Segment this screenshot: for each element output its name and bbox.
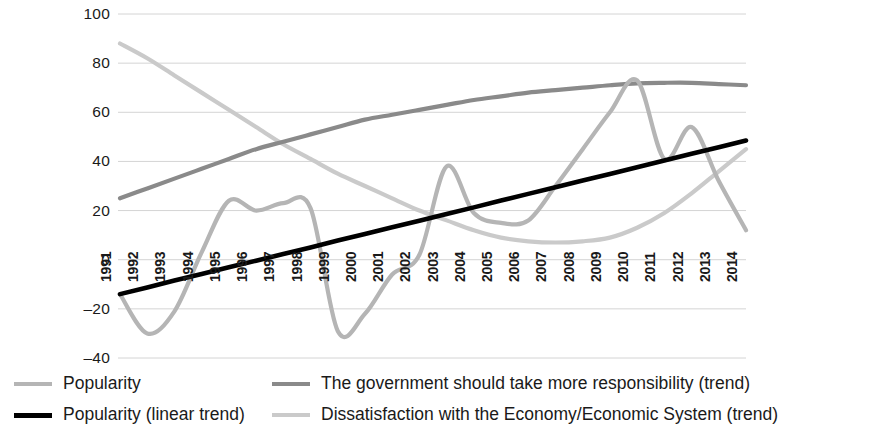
x-axis-tick-label: 2012 (670, 251, 686, 281)
y-axis-tick-label: 40 (58, 152, 110, 170)
legend-label: The government should take more responsi… (321, 375, 750, 393)
legend-label: Popularity (63, 375, 141, 393)
x-axis-tick-label: 2009 (588, 251, 604, 281)
x-axis-tick-label: 1998 (289, 251, 305, 281)
gridlines-group (118, 14, 746, 358)
x-axis-tick-label: 2004 (452, 251, 468, 281)
x-axis-tick-label: 1991 (98, 251, 114, 281)
legend-label: Popularity (linear trend) (63, 406, 245, 424)
x-axis-tick-label: 2013 (697, 251, 713, 281)
y-axis-tick-label: 100 (58, 5, 110, 23)
legend-item[interactable]: Popularity (14, 371, 141, 397)
legend-item[interactable]: The government should take more responsi… (272, 371, 750, 397)
legend-color-swatch (14, 382, 52, 386)
x-axis-tick-label: 1997 (261, 251, 277, 281)
series-line (120, 79, 746, 337)
legend-item[interactable]: Dissatisfaction with the Economy/Economi… (272, 402, 778, 428)
x-axis-tick-label: 2011 (642, 252, 658, 282)
x-axis-tick-label: 2007 (533, 251, 549, 281)
x-axis-tick-label: 1996 (234, 251, 250, 281)
y-axis-tick-label: 60 (58, 103, 110, 121)
x-axis-tick-label: 1994 (180, 251, 196, 281)
x-axis-tick-label: 1992 (125, 251, 141, 281)
data-series-group (120, 43, 746, 337)
legend-color-swatch (14, 413, 52, 418)
x-axis-tick-label: 1999 (316, 251, 332, 281)
legend-label: Dissatisfaction with the Economy/Economi… (321, 406, 778, 424)
x-axis-tick-label: 1993 (152, 251, 168, 281)
x-axis-tick-label: 2002 (397, 251, 413, 281)
chart-plot-area (0, 0, 887, 432)
x-axis-tick-label: 2003 (425, 251, 441, 281)
y-axis-tick-label: –20 (58, 300, 110, 318)
legend-item[interactable]: Popularity (linear trend) (14, 402, 245, 428)
y-axis-tick-label: –40 (58, 349, 110, 367)
x-axis-tick-label: 1995 (207, 251, 223, 281)
x-axis-tick-label: 2001 (370, 251, 386, 281)
x-axis-tick-label: 2008 (561, 251, 577, 281)
chart-legend: PopularityThe government should take mor… (0, 371, 887, 432)
x-axis-tick-label: 2000 (343, 251, 359, 281)
y-axis-tick-label: 20 (58, 202, 110, 220)
x-axis-tick-label: 2006 (506, 251, 522, 281)
x-axis-tick-label: 2005 (479, 251, 495, 281)
chart-container: 100806040200–20–40 199119921993199419951… (0, 0, 887, 432)
y-axis-tick-label: 80 (58, 54, 110, 72)
x-axis-tick-label: 2010 (615, 251, 631, 281)
legend-color-swatch (272, 382, 310, 386)
legend-color-swatch (272, 413, 310, 417)
x-axis-tick-label: 2014 (724, 251, 740, 281)
